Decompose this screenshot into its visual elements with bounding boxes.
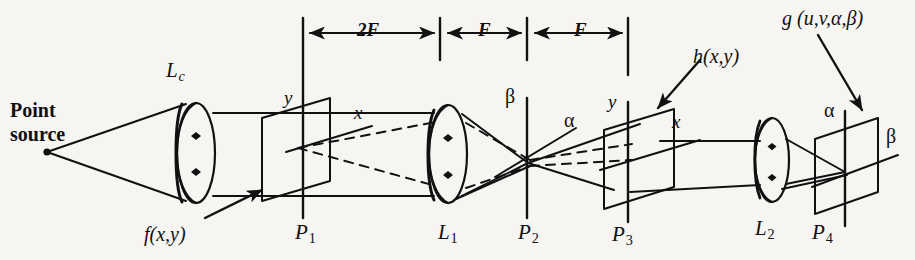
lens-l1-mark-lower [443, 171, 453, 179]
plane-label-P4-sub: 4 [825, 230, 833, 246]
plane-p2-axis-alpha [495, 128, 576, 177]
lens-lc-marks [191, 132, 201, 176]
plane-p1-axis-x-label: x [354, 103, 362, 122]
plane-p1-axis-y-label: y [284, 88, 292, 107]
lens-label-L1-base: L [438, 220, 450, 244]
plane-p3-axis-x-label: x [672, 112, 680, 131]
lens-l1-mark-upper [443, 134, 453, 142]
leader-f-xy [205, 190, 262, 218]
point-source-rays [47, 104, 186, 201]
lens-l2-mark-lower [768, 174, 777, 181]
lens-label-Lc-sub: c [178, 68, 185, 84]
plane-label-P1: P1 [295, 222, 316, 245]
ray-l1p2-upper-solid [462, 114, 528, 163]
ray-l1p2-dash-lower [466, 166, 530, 188]
lens-label-Lc-base: L [166, 58, 178, 82]
source-ray-lower [47, 152, 186, 201]
plane-p4-axis-beta-label: β [886, 126, 896, 146]
plane-label-P1-sub: 1 [308, 230, 316, 246]
plane-label-P3-sub: 3 [625, 232, 633, 248]
optical-diagram-figure: Point source Lc y x P1 f(x,y) L1 β α P2 … [0, 0, 915, 260]
diagram-canvas [0, 0, 915, 260]
lens-label-L1-sub: 1 [450, 230, 458, 246]
ray-p2p3-upper-solid [528, 124, 640, 163]
point-source-label-line1: Point [10, 100, 56, 120]
plane-label-P2-sub: 2 [531, 230, 539, 246]
lens-lc-mark-upper [191, 132, 201, 140]
collimated-beam [213, 113, 330, 196]
ray-p2p3-lower-solid [528, 163, 614, 190]
lens-label-L1: L1 [438, 222, 458, 245]
dimension-label-2F: 2F [357, 20, 379, 39]
lens-l2-rim-lower [755, 160, 772, 202]
dimension-label-F2: F [574, 20, 587, 39]
lens-l1-marks [443, 134, 453, 179]
plane-p2-axis-alpha-label: α [564, 110, 574, 130]
ray-l1p2-dash-upper [466, 123, 530, 160]
plane-label-P3: P3 [612, 224, 633, 247]
leader-h-xy [658, 60, 700, 108]
lens-label-L2: L2 [755, 218, 775, 241]
ray-p3l2-lower [630, 185, 760, 192]
ray-p1l1-dash-upper [298, 122, 436, 148]
lens-l2-marks [768, 143, 777, 181]
lens-label-Lc: Lc [166, 60, 185, 83]
plane-label-P4-base: P [812, 220, 825, 244]
ray-l1p2-lower-solid-b [456, 166, 530, 199]
source-ray-upper [47, 104, 186, 152]
filter-function-label: h(x,y) [693, 46, 739, 66]
rays-p2-to-p3 [528, 124, 640, 190]
rays-p3-to-l2 [630, 141, 760, 192]
lens-lc-mark-lower [191, 168, 201, 176]
output-function-label: g (u,v,α,β) [782, 8, 863, 28]
plane-label-P1-base: P [295, 220, 308, 244]
collimating-lens-Lc [176, 103, 215, 203]
ray-p1l1-dash-lower [298, 148, 436, 186]
plane-label-P4: P4 [812, 222, 833, 245]
lens-label-L2-base: L [755, 216, 767, 240]
rays-p1-to-l1-dashed [298, 122, 436, 186]
plane-p3-axis-y-label: y [608, 92, 616, 111]
plane-label-P2-base: P [518, 220, 531, 244]
input-function-label: f(x,y) [144, 224, 186, 244]
fourier-lens-L1 [428, 105, 467, 203]
point-source-dot [43, 148, 50, 155]
lens-label-L2-sub: 2 [767, 226, 775, 242]
plane-p2-axis-beta-label: β [505, 86, 515, 106]
plane-p3-axis-x [600, 140, 700, 170]
dimension-label-F1: F [478, 20, 491, 39]
lens-l2-mark-upper [768, 143, 777, 150]
plane-p4-axis-alpha-label: α [824, 100, 834, 120]
point-source-label-line2: source [10, 124, 65, 144]
plane-label-P2: P2 [518, 222, 539, 245]
plane-label-P3-base: P [612, 222, 625, 246]
